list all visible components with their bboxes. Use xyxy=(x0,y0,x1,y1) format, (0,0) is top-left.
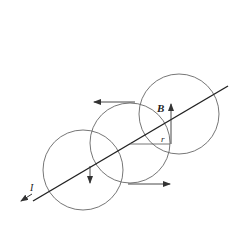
field-circle-1 xyxy=(43,130,123,210)
label-current-i: I xyxy=(29,182,34,193)
field-circle-3 xyxy=(139,74,219,154)
magnetic-field-diagram: B r I xyxy=(0,0,249,226)
label-radius-r: r xyxy=(161,134,165,144)
current-arrow-icon xyxy=(21,194,32,201)
label-field-b: B xyxy=(156,102,164,114)
